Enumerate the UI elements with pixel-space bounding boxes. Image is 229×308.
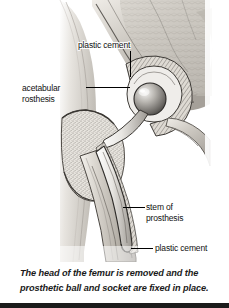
- left-fade: [0, 0, 58, 262]
- leader-stem: [123, 207, 145, 208]
- label-acetabular-prosthesis: acetabular rosthesis: [22, 83, 60, 104]
- label-stem-line1: stem of: [146, 202, 173, 212]
- bottom-bar: [0, 303, 229, 308]
- leader-plastic-cement-bottom: [131, 248, 153, 249]
- label-plastic-cement-top: plastic cement: [78, 40, 130, 51]
- leader-acetabular: [86, 87, 130, 88]
- illustration-page: plastic cement acetabular rosthesis stem…: [0, 0, 229, 308]
- leader-plastic-cement-top: [130, 51, 131, 77]
- label-stem-line2: prosthesis: [146, 213, 183, 224]
- caption-line-1: The head of the femur is removed and the: [0, 262, 229, 281]
- label-plastic-cement-bottom: plastic cement: [155, 243, 207, 254]
- label-acetabular-line1: acetabular: [22, 83, 60, 93]
- right-fade: [205, 0, 229, 262]
- label-stem-of-prosthesis: stem of prosthesis: [146, 202, 183, 223]
- caption-line-2: prosthetic ball and socket are fixed in …: [0, 281, 229, 296]
- figure-caption: The head of the femur is removed and the…: [0, 262, 229, 306]
- prosthetic-ball: [134, 83, 166, 115]
- label-acetabular-line2: rosthesis: [22, 94, 60, 105]
- hip-replacement-figure: plastic cement acetabular rosthesis stem…: [0, 0, 229, 262]
